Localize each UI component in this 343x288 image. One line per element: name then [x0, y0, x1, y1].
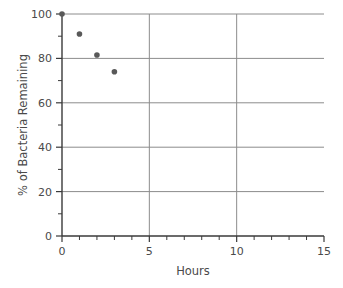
chart-figure: 020406080100 051015 Hours % of Bacteria …	[0, 0, 343, 288]
y-tick-label: 80	[38, 52, 52, 65]
x-tick-label: 10	[230, 245, 244, 258]
x-tick-label: 15	[317, 245, 331, 258]
y-tick-label: 20	[38, 186, 52, 199]
y-tick-label: 60	[38, 97, 52, 110]
data-point	[94, 52, 100, 58]
y-tick-label: 40	[38, 141, 52, 154]
y-tick-label: 0	[45, 230, 52, 243]
data-point	[59, 11, 65, 17]
x-tick-label: 5	[146, 245, 153, 258]
x-axis-title: Hours	[176, 264, 210, 278]
y-axis-title: % of Bacteria Remaining	[16, 54, 30, 196]
x-tick-label: 0	[59, 245, 66, 258]
scatter-plot-svg: 020406080100 051015 Hours % of Bacteria …	[0, 0, 343, 288]
y-tick-label: 100	[31, 8, 52, 21]
data-point	[112, 69, 118, 75]
data-point	[77, 31, 83, 37]
